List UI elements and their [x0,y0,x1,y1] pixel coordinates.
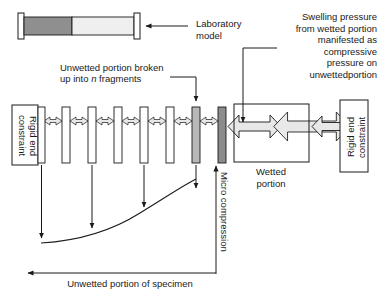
fragment-chain [38,107,226,163]
unwetted-portion-of-specimen-label: Unwetted portion of specimen [40,278,220,290]
fragment-block [62,107,70,163]
swelling-pressure-arrows [228,112,359,141]
unwetted-broken-label-line2: up into n fragments [60,73,141,85]
fragment-block [88,107,96,163]
swelling-pressure-label: Swelling pressure from wetted portion ma… [246,11,377,80]
fragments-text-post: fragments [96,73,141,84]
fragment-block [38,107,45,163]
fragment-curve-leaders [42,165,197,238]
laboratory-model-specimen [18,13,140,39]
rigid-end-constraint-left-label: Rigid end constraint [17,110,39,162]
fragments-text-pre: up into [60,73,91,84]
unwetted-broken-label-line1: Unwetted portion broken [60,62,164,74]
fragment-block-shaded [192,107,200,163]
fragment-block [166,107,174,163]
fragments-label-leader [170,77,196,101]
rigid-end-constraint-right-label: Rigid end constraint [345,106,367,168]
laboratory-model-label: Laboratory model [196,18,241,41]
fragment-block [114,107,122,163]
diagram-root: Laboratory model Unwetted portion broken… [0,0,380,299]
wetted-portion-label: Wetted portion [242,166,300,189]
micro-compression-curve [41,179,196,243]
fragment-block-shaded [218,107,226,163]
fragment-block [140,107,148,163]
micro-compression-label: Micro compression [219,172,230,252]
